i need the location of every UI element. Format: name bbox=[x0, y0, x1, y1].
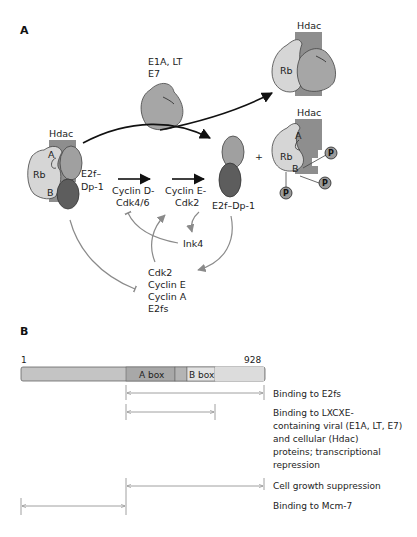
phospho-pocket-a: A bbox=[295, 130, 302, 141]
domain-start-label: 1 bbox=[21, 355, 27, 365]
viral-proteins-label-1: E1A, LT bbox=[148, 56, 183, 67]
range-label-lxcxe-4: proteins; transcriptional bbox=[273, 447, 381, 457]
phosphate-2-label: P bbox=[322, 179, 328, 188]
panel-a-label: A bbox=[20, 24, 29, 37]
top-hdac-label: Hdac bbox=[297, 20, 321, 31]
cyclin-e-label-2: Cdk2 bbox=[175, 197, 199, 208]
range-label-lxcxe-3: and cellular (Hdac) bbox=[273, 434, 359, 444]
rb-viral-complex: Hdac Rb bbox=[272, 20, 336, 96]
dp1-label-text: Dp-1 bbox=[81, 181, 104, 192]
phospho-link-2 bbox=[300, 176, 319, 183]
range-label-growth: Cell growth suppression bbox=[273, 481, 381, 491]
top-viral-shape bbox=[297, 49, 335, 92]
viral-protein-group: E1A, LT E7 bbox=[141, 56, 183, 130]
range-label-lxcxe-1: Binding to LXCXE- bbox=[273, 408, 354, 418]
targets-activate-cyclin-e bbox=[152, 215, 165, 262]
b-box-label: B box bbox=[189, 370, 215, 380]
viral-proteins-label-2: E7 bbox=[148, 68, 160, 79]
viral-protein-shape bbox=[141, 83, 183, 129]
range-growth-suppression: Cell growth suppression bbox=[126, 478, 381, 495]
phospho-rb-label: Rb bbox=[280, 151, 293, 162]
range-label-e2fs: Binding to E2fs bbox=[273, 389, 341, 399]
pocket-a-label: A bbox=[48, 149, 55, 160]
range-label-mcm7: Binding to Mcm-7 bbox=[273, 501, 352, 511]
rb-label: Rb bbox=[33, 169, 46, 180]
plus-sign: + bbox=[255, 151, 263, 162]
free-e2f-dp1: E2f–Dp-1 bbox=[212, 136, 255, 211]
rb-pathway-figure: A E1A, LT E7 Hdac A Rb B E2f– Dp-1 Cycli… bbox=[0, 0, 417, 537]
range-binding-lxcxe: Binding to LXCXE- containing viral (E1A,… bbox=[126, 404, 402, 470]
cyclin-d-label-2: Cdk4/6 bbox=[116, 197, 149, 208]
phosphate-3-label: P bbox=[283, 189, 289, 198]
target-cdk2: Cdk2 bbox=[148, 267, 172, 278]
free-dp1-shape bbox=[219, 163, 241, 197]
free-e2f-label: E2f–Dp-1 bbox=[212, 200, 255, 211]
e2f-label: E2f– bbox=[81, 168, 101, 179]
e2f-shape bbox=[60, 146, 82, 180]
release-arrow bbox=[83, 124, 210, 143]
ink4-label: Ink4 bbox=[183, 238, 203, 249]
target-e2fs: E2fs bbox=[148, 303, 168, 314]
domain-end-label: 928 bbox=[244, 355, 261, 365]
panel-b-label: B bbox=[20, 325, 28, 338]
phosphate-1-label: P bbox=[328, 149, 334, 158]
phospho-pocket-b: B bbox=[292, 163, 299, 174]
rb-represses-targets bbox=[70, 220, 135, 289]
range-binding-mcm7: Binding to Mcm-7 bbox=[21, 495, 352, 515]
range-binding-e2fs: Binding to E2fs bbox=[126, 385, 341, 400]
phospho-rb-complex: Hdac A Rb B P P P bbox=[272, 107, 337, 199]
range-label-lxcxe-2: containing viral (E1A, LT, E7) bbox=[273, 421, 402, 431]
spacer-region bbox=[175, 367, 187, 381]
cyclin-e-label-1: Cyclin E- bbox=[165, 185, 206, 196]
rb-domain-bar: A box B box bbox=[21, 367, 265, 381]
dp1-shape bbox=[57, 179, 79, 209]
target-cyclin-e: Cyclin E bbox=[148, 279, 186, 290]
hdac-label: Hdac bbox=[49, 128, 73, 139]
target-cyclin-a: Cyclin A bbox=[148, 291, 187, 302]
ink4-inhibits-cyclin-d bbox=[128, 213, 178, 243]
e2f-induces-ink4 bbox=[191, 212, 199, 232]
pocket-b-label: B bbox=[47, 187, 54, 198]
top-rb-label: Rb bbox=[280, 65, 293, 76]
a-box-label: A box bbox=[139, 370, 165, 380]
rb-e2f-hdac-complex: Hdac A Rb B E2f– Dp-1 bbox=[28, 128, 104, 209]
c-terminal-region bbox=[215, 367, 264, 381]
range-label-lxcxe-5: repression bbox=[273, 460, 320, 470]
cyclin-d-label-1: Cyclin D- bbox=[112, 185, 155, 196]
phospho-hdac-label: Hdac bbox=[297, 107, 321, 118]
